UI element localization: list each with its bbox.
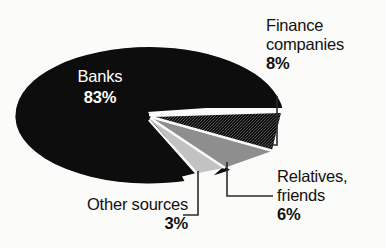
slice-label-relatives-friends: Relatives, friends 6% — [277, 167, 347, 224]
slice-label-other-sources: Other sources 3% — [48, 195, 188, 233]
slice-label-banks-name: Banks — [48, 66, 152, 87]
slice-label-relatives-line2: friends — [277, 186, 347, 205]
slice-label-finance-companies: Finance companies 8% — [266, 16, 344, 73]
slice-label-finance-line1: Finance — [266, 16, 344, 35]
slice-label-banks-percent: 83% — [48, 87, 152, 108]
slice-label-banks: Banks 83% — [48, 66, 152, 108]
slice-label-other-percent: 3% — [48, 214, 188, 233]
slice-label-finance-percent: 8% — [266, 54, 344, 73]
slice-label-finance-line2: companies — [266, 35, 344, 54]
slice-label-other-name: Other sources — [48, 195, 188, 214]
slice-label-relatives-percent: 6% — [277, 205, 347, 224]
leader-line-relatives-friends — [227, 162, 273, 196]
slice-label-relatives-line1: Relatives, — [277, 167, 347, 186]
pie-chart-figure: Banks 83% Finance companies 8% Relatives… — [0, 0, 386, 248]
